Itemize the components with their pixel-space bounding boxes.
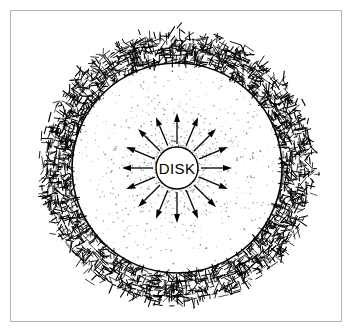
center-disk-label: DISK bbox=[159, 160, 196, 177]
figure-container: DISK bbox=[0, 0, 354, 334]
diagram-canvas: DISK bbox=[0, 0, 354, 334]
